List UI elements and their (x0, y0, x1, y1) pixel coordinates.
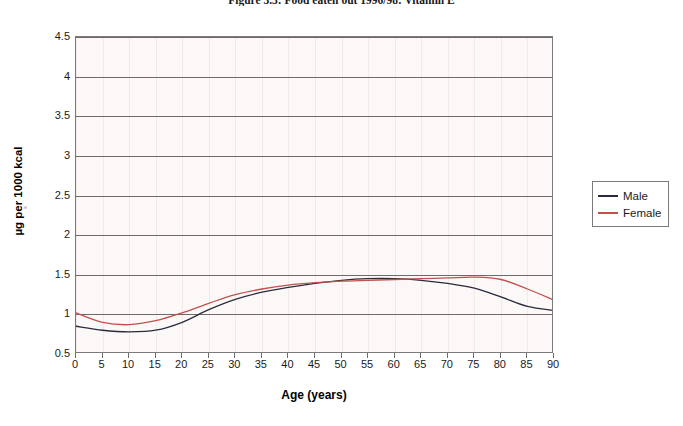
x-axis-tick-label: 5 (87, 358, 117, 370)
y-axis-title: µg per 1000 kcal (12, 116, 24, 266)
x-axis-tick-mark (447, 353, 448, 358)
x-axis-tick-mark (367, 353, 368, 358)
x-axis-tick-label: 35 (246, 358, 276, 370)
x-axis-tick-label: 60 (379, 358, 409, 370)
x-axis-tick-label: 75 (458, 358, 488, 370)
x-axis-tick-label: 65 (405, 358, 435, 370)
series-lines (76, 37, 553, 353)
x-axis-tick-mark (102, 353, 103, 358)
x-axis-tick-mark (155, 353, 156, 358)
x-axis-tick-label: 70 (432, 358, 462, 370)
y-axis-tick-label: 4.5 (44, 31, 70, 42)
x-axis-tick-mark (208, 353, 209, 358)
x-axis-tick-label: 85 (511, 358, 541, 370)
x-axis-tick-mark (526, 353, 527, 358)
x-axis-tick-label: 50 (326, 358, 356, 370)
y-axis-tick-label: 4 (44, 71, 70, 82)
legend-item: Female (598, 204, 661, 221)
chart-legend: MaleFemale (592, 181, 669, 227)
x-axis-tick-labels: 051015202530354045505560657075808590 (75, 358, 553, 374)
plot-area (75, 36, 553, 353)
x-axis-tick-label: 80 (485, 358, 515, 370)
y-axis-tick-label: 2.5 (44, 190, 70, 201)
x-axis-tick-mark (234, 353, 235, 358)
x-axis-tick-mark (473, 353, 474, 358)
x-axis-tick-label: 0 (60, 358, 90, 370)
series-line-female (76, 277, 553, 325)
legend-line-icon (598, 212, 618, 214)
x-axis-title: Age (years) (75, 388, 553, 402)
x-axis-tick-mark (181, 353, 182, 358)
x-axis-tick-label: 40 (272, 358, 302, 370)
y-axis-tick-label: 3 (44, 150, 70, 161)
x-axis-tick-mark (75, 353, 76, 358)
scan-artifact (24, 206, 27, 209)
x-axis-tick-label: 45 (299, 358, 329, 370)
x-axis-tick-label: 10 (113, 358, 143, 370)
y-axis-tick-label: 1.5 (44, 269, 70, 280)
x-axis-tick-label: 30 (219, 358, 249, 370)
x-axis-tick-label: 25 (193, 358, 223, 370)
series-line-male (76, 279, 553, 332)
x-axis-tick-label: 20 (166, 358, 196, 370)
x-axis-tick-mark (261, 353, 262, 358)
x-axis-tick-mark (341, 353, 342, 358)
x-axis-tick-mark (314, 353, 315, 358)
x-axis-tick-mark (128, 353, 129, 358)
x-axis-tick-mark (394, 353, 395, 358)
y-axis-tick-label: 3.5 (44, 110, 70, 121)
x-axis-tick-label: 55 (352, 358, 382, 370)
y-axis-tick-label: 2 (44, 229, 70, 240)
x-axis-tick-mark (287, 353, 288, 358)
legend-item: Male (598, 187, 661, 204)
x-axis-tick-mark (420, 353, 421, 358)
legend-label: Male (623, 190, 648, 202)
legend-label: Female (623, 207, 661, 219)
y-axis-tick-label: 1 (44, 308, 70, 319)
line-chart: 0.511.522.533.544.5 µg per 1000 kcal 051… (0, 0, 683, 426)
x-axis-tick-mark (500, 353, 501, 358)
x-axis-tick-label: 90 (538, 358, 568, 370)
x-axis-tick-mark (553, 353, 554, 358)
legend-line-icon (598, 195, 618, 197)
x-axis-tick-label: 15 (140, 358, 170, 370)
